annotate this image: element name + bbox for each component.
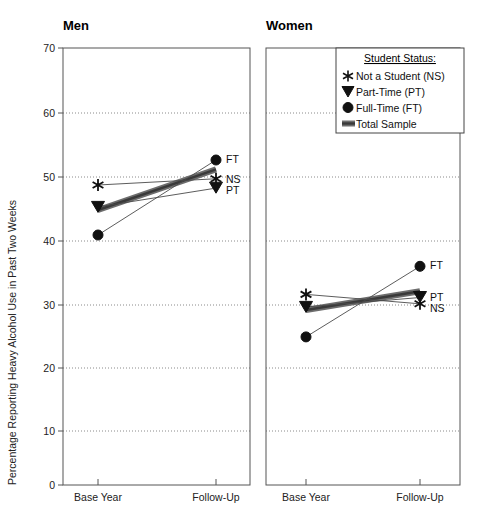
legend-label-total-sample: Total Sample bbox=[356, 118, 417, 130]
legend-title: Student Status: bbox=[364, 52, 436, 64]
y-axis-title: Percentage Reporting Heavy Alcohol Use i… bbox=[6, 200, 18, 485]
men-xlabel-follow-up: Follow-Up bbox=[192, 491, 239, 503]
men-marker-pt-followup bbox=[210, 182, 223, 193]
chart-canvas: Men Women Percentage Reporting Heavy Alc… bbox=[0, 0, 482, 532]
men-point-label-ft: FT bbox=[226, 153, 239, 165]
men-plot-frame bbox=[63, 48, 250, 485]
women-gridlines bbox=[266, 113, 460, 431]
men-gridlines bbox=[63, 113, 250, 431]
legend-entry-not-a-student: Not a Student (NS) bbox=[343, 70, 445, 82]
panel-title-women: Women bbox=[266, 18, 313, 33]
women-marker-ft-base bbox=[301, 332, 311, 342]
women-xlabel-follow-up: Follow-Up bbox=[396, 491, 443, 503]
legend-label-full-time: Full-Time (FT) bbox=[356, 102, 422, 114]
women-point-label-ft: FT bbox=[430, 259, 443, 271]
y-tick-60: 60 bbox=[43, 107, 55, 119]
women-series-total-sample-core bbox=[306, 291, 420, 310]
y-tick-10: 10 bbox=[43, 425, 55, 437]
legend-label-not-a-student: Not a Student (NS) bbox=[356, 70, 445, 82]
men-xlabel-base-year: Base Year bbox=[74, 491, 122, 503]
women-series-ft-line bbox=[306, 266, 420, 337]
y-axis-tickmarks bbox=[58, 48, 63, 485]
chart-figure: Men Women Percentage Reporting Heavy Alc… bbox=[0, 0, 482, 532]
y-axis-tick-labels: 70 60 50 40 30 20 10 0 bbox=[43, 42, 55, 491]
men-series-ns-line bbox=[98, 179, 216, 185]
men-marker-ft-base bbox=[93, 230, 103, 240]
y-tick-50: 50 bbox=[43, 171, 55, 183]
women-marker-ft-followup bbox=[415, 261, 425, 271]
women-point-label-ns: NS bbox=[430, 302, 445, 314]
y-tick-40: 40 bbox=[43, 235, 55, 247]
y-tick-70: 70 bbox=[43, 42, 55, 54]
y-tick-0: 0 bbox=[49, 479, 55, 491]
men-point-label-pt: PT bbox=[226, 184, 240, 196]
circle-icon bbox=[343, 103, 353, 113]
panel-men: FT NS PT Base Year Follow-Up bbox=[63, 48, 250, 503]
legend-label-part-time: Part-Time (PT) bbox=[356, 86, 425, 98]
men-series-ft-line bbox=[98, 160, 216, 235]
y-tick-20: 20 bbox=[43, 362, 55, 374]
panel-title-men: Men bbox=[63, 18, 89, 33]
y-tick-30: 30 bbox=[43, 299, 55, 311]
legend: Student Status: Not a Student (NS) Part-… bbox=[336, 48, 464, 133]
men-marker-ft-followup bbox=[211, 155, 221, 165]
women-xlabel-base-year: Base Year bbox=[282, 491, 330, 503]
